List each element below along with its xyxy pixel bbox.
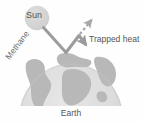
greenhouse-effect-diagram: Sun Trapped heat Methane Earth <box>0 0 142 123</box>
reflected-ray <box>66 36 79 53</box>
sun-label: Sun <box>26 11 42 20</box>
escaping-radiation-arrow <box>80 20 92 34</box>
earth-label: Earth <box>0 109 142 118</box>
trapped-heat-arrow <box>79 36 86 46</box>
earth-landmasses <box>26 53 116 108</box>
incoming-solar-ray <box>44 28 67 53</box>
diagram-canvas <box>0 0 142 123</box>
trapped-heat-label: Trapped heat <box>89 35 139 44</box>
